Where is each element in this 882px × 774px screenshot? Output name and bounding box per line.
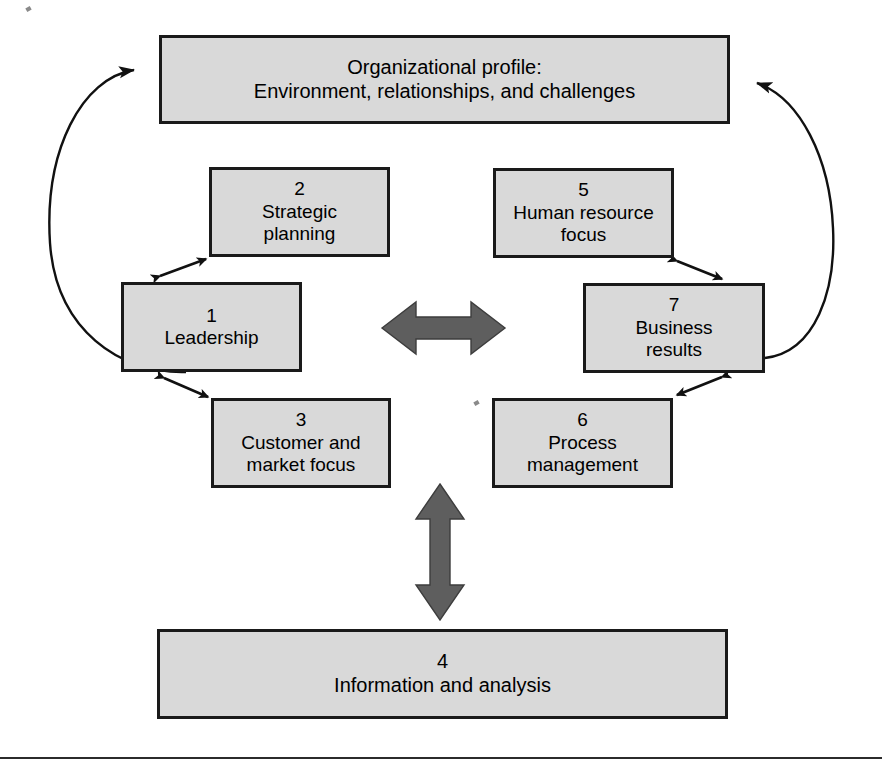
node-customer-and-market-focus[interactable]: 3 Customer and market focus — [211, 398, 391, 488]
node-organizational-profile[interactable]: Organizational profile: Environment, rel… — [159, 35, 730, 124]
node-business-results-number: 7 — [669, 294, 680, 316]
node-leadership-number: 1 — [206, 305, 217, 327]
connector-leadership-strategic — [160, 259, 206, 276]
connector-curve-right — [757, 83, 833, 358]
node-information-and-analysis[interactable]: 4 Information and analysis — [157, 629, 728, 719]
connector-hr-results — [677, 261, 722, 279]
connector-center-vertical — [416, 484, 464, 620]
node-strategic-planning-label: Strategic planning — [262, 201, 337, 246]
node-customer-and-market-focus-number: 3 — [296, 409, 307, 431]
connector-results-process — [677, 377, 722, 395]
node-strategic-planning-number: 2 — [294, 178, 305, 200]
node-customer-and-market-focus-label: Customer and market focus — [241, 432, 360, 477]
node-business-results[interactable]: 7 Business results — [583, 283, 765, 373]
page-divider-rule — [0, 757, 882, 759]
node-human-resource-focus[interactable]: 5 Human resource focus — [493, 168, 674, 258]
node-human-resource-focus-number: 5 — [578, 179, 589, 201]
node-human-resource-focus-label: Human resource focus — [513, 202, 653, 247]
node-organizational-profile-label: Organizational profile: Environment, rel… — [254, 56, 635, 103]
node-process-management-label: Process management — [527, 432, 638, 477]
node-strategic-planning[interactable]: 2 Strategic planning — [209, 167, 390, 257]
node-leadership[interactable]: 1 Leadership — [121, 282, 302, 372]
node-business-results-label: Business results — [635, 317, 712, 362]
connector-leadership-customer — [164, 378, 208, 397]
node-process-management[interactable]: 6 Process management — [492, 398, 673, 488]
connector-center-horizontal — [382, 302, 505, 354]
node-information-and-analysis-label: Information and analysis — [334, 674, 551, 698]
diagram-canvas: Organizational profile: Environment, rel… — [0, 0, 882, 774]
node-process-management-number: 6 — [577, 409, 588, 431]
node-leadership-label: Leadership — [164, 327, 258, 349]
node-information-and-analysis-number: 4 — [437, 650, 448, 674]
